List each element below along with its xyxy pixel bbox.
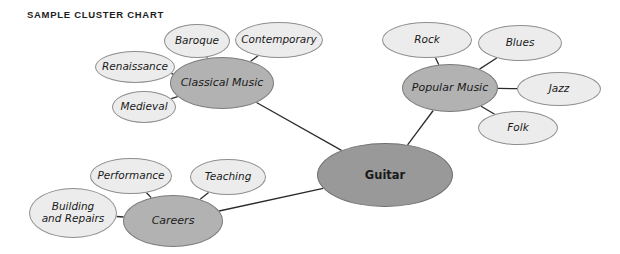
node-label-folk: Folk <box>503 122 532 134</box>
node-performance[interactable]: Performance <box>90 158 172 194</box>
node-building[interactable]: Building and Repairs <box>29 188 117 238</box>
node-label-medieval: Medieval <box>116 101 171 113</box>
node-contemporary[interactable]: Contemporary <box>235 22 323 58</box>
node-jazz[interactable]: Jazz <box>517 72 601 106</box>
node-medieval[interactable]: Medieval <box>112 91 176 123</box>
chart-title: SAMPLE CLUSTER CHART <box>27 9 164 20</box>
node-label-careers: Careers <box>148 215 199 227</box>
node-label-blues: Blues <box>502 37 539 49</box>
node-label-jazz: Jazz <box>545 83 574 95</box>
node-label-rock: Rock <box>410 34 444 46</box>
node-layer: GuitarClassical MusicPopular MusicCareer… <box>0 0 620 254</box>
node-blues[interactable]: Blues <box>478 25 562 61</box>
node-label-contemporary: Contemporary <box>237 34 321 46</box>
node-label-popular: Popular Music <box>408 82 492 94</box>
node-classical[interactable]: Classical Music <box>170 57 274 109</box>
node-label-teaching: Teaching <box>201 171 256 183</box>
node-rock[interactable]: Rock <box>382 22 472 58</box>
node-popular[interactable]: Popular Music <box>402 64 498 112</box>
node-teaching[interactable]: Teaching <box>190 159 266 195</box>
node-label-building: Building and Repairs <box>38 201 109 225</box>
node-guitar[interactable]: Guitar <box>317 143 453 207</box>
node-label-performance: Performance <box>93 170 168 182</box>
node-label-renaissance: Renaissance <box>98 61 172 73</box>
node-label-guitar: Guitar <box>361 169 410 182</box>
node-label-classical: Classical Music <box>177 77 268 89</box>
node-label-baroque: Baroque <box>171 35 223 47</box>
cluster-chart-canvas: SAMPLE CLUSTER CHART GuitarClassical Mus… <box>0 0 620 254</box>
node-careers[interactable]: Careers <box>123 195 223 247</box>
node-baroque[interactable]: Baroque <box>164 24 230 58</box>
node-folk[interactable]: Folk <box>478 111 558 145</box>
node-renaissance[interactable]: Renaissance <box>95 51 175 83</box>
